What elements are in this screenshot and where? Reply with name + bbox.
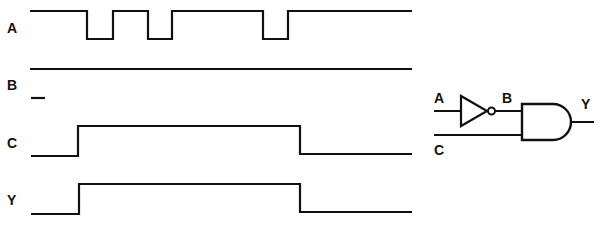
waveform-y: [31, 184, 412, 214]
signal-label-b: B: [7, 77, 17, 93]
circuit-label-a: A: [434, 90, 444, 106]
timing-diagram-canvas: A B C Y A B C Y: [0, 0, 603, 236]
signal-label-a: A: [7, 20, 17, 36]
signal-label-y: Y: [7, 192, 17, 208]
waveform-c: [31, 126, 412, 156]
and-gate-icon: [522, 104, 571, 140]
logic-circuit: A B C Y: [434, 90, 594, 158]
signal-label-c: C: [7, 135, 17, 151]
circuit-label-b: B: [502, 90, 512, 106]
circuit-label-y: Y: [581, 96, 591, 112]
not-gate-icon: [461, 96, 487, 126]
circuit-label-c: C: [434, 142, 444, 158]
waveform-a: [30, 11, 412, 39]
